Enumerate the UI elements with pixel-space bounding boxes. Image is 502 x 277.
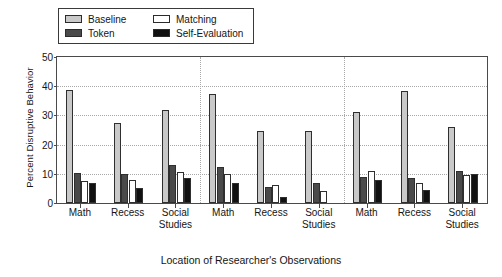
x-axis-title: Location of Researcher's Observations xyxy=(0,254,502,266)
bar-self-evaluation xyxy=(423,190,430,203)
chart-legend: Baseline Matching Token Self-Evaluation xyxy=(58,8,254,44)
bar-token xyxy=(265,187,272,203)
y-axis-tick-label: 10 xyxy=(42,168,53,179)
legend-label-baseline: Baseline xyxy=(88,14,126,25)
bar-baseline xyxy=(162,110,169,203)
legend-label-self-evaluation: Self-Evaluation xyxy=(176,28,243,39)
x-axis-tick-label: Social Studies xyxy=(292,207,346,231)
plot-area: 01020304050 xyxy=(56,56,488,204)
x-axis-tick-label: Math xyxy=(196,207,250,219)
bar-self-evaluation xyxy=(232,183,239,203)
bar-self-evaluation xyxy=(375,180,382,203)
legend-entry-baseline: Baseline xyxy=(65,14,153,25)
x-axis-tick-label: Math xyxy=(340,207,394,219)
legend-entry-matching: Matching xyxy=(153,14,217,25)
bar-token xyxy=(217,167,224,204)
bar-token xyxy=(360,177,367,203)
y-axis-title: Percent Disruptive Behavior xyxy=(24,48,35,208)
bar-matching xyxy=(320,191,327,203)
y-axis-tick-mark xyxy=(54,57,57,58)
legend-label-matching: Matching xyxy=(176,14,217,25)
bar-baseline xyxy=(353,112,360,203)
x-axis-tick-label: Recess xyxy=(387,207,441,219)
gridline xyxy=(57,145,487,146)
gridline xyxy=(57,115,487,116)
bar-baseline xyxy=(209,94,216,204)
bar-chart-figure: Baseline Matching Token Self-Evaluation … xyxy=(0,0,502,277)
y-axis-tick-label: 30 xyxy=(42,110,53,121)
bar-baseline xyxy=(401,91,408,203)
legend-row-2: Token Self-Evaluation xyxy=(65,26,248,40)
bar-matching xyxy=(81,181,88,203)
gridline xyxy=(57,86,487,87)
legend-label-token: Token xyxy=(88,28,115,39)
y-axis-tick-label: 20 xyxy=(42,139,53,150)
bar-token xyxy=(169,165,176,203)
bar-token xyxy=(74,173,81,203)
bar-token xyxy=(121,174,128,203)
bar-self-evaluation xyxy=(184,178,191,203)
x-axis-tick-label: Math xyxy=(53,207,107,219)
legend-entry-token: Token xyxy=(65,28,153,39)
legend-entry-self-evaluation: Self-Evaluation xyxy=(153,28,243,39)
legend-swatch-matching xyxy=(153,15,170,23)
bar-baseline xyxy=(66,90,73,203)
bar-baseline xyxy=(114,123,121,203)
bar-matching xyxy=(416,183,423,203)
bar-self-evaluation xyxy=(89,183,96,203)
x-axis-tick-label: Recess xyxy=(101,207,155,219)
y-axis-tick-mark xyxy=(54,145,57,146)
y-axis-tick-mark xyxy=(54,115,57,116)
bar-matching xyxy=(368,171,375,203)
bar-token xyxy=(313,183,320,203)
bar-matching xyxy=(177,172,184,203)
y-axis-tick-mark xyxy=(54,86,57,87)
y-axis-tick-label: 50 xyxy=(42,52,53,63)
x-axis-tick-label: Recess xyxy=(244,207,298,219)
bar-baseline xyxy=(305,131,312,203)
legend-swatch-self-evaluation xyxy=(153,29,170,37)
panel-divider xyxy=(200,57,201,203)
x-axis-tick-label: Social Studies xyxy=(148,207,202,231)
legend-swatch-baseline xyxy=(65,15,82,23)
bar-matching xyxy=(272,185,279,203)
plot-inner: 01020304050 xyxy=(57,57,487,203)
bar-baseline xyxy=(257,131,264,203)
bar-token xyxy=(408,178,415,203)
panel-divider xyxy=(344,57,345,203)
bar-matching xyxy=(224,174,231,203)
legend-row-1: Baseline Matching xyxy=(65,12,248,26)
bar-self-evaluation xyxy=(136,188,143,203)
y-axis-tick-mark xyxy=(54,174,57,175)
y-axis-tick-label: 40 xyxy=(42,81,53,92)
bar-matching xyxy=(463,175,470,203)
y-axis-tick-mark xyxy=(54,203,57,204)
bar-matching xyxy=(129,180,136,203)
x-axis-tick-label: Social Studies xyxy=(435,207,489,231)
bar-self-evaluation xyxy=(471,174,478,203)
legend-swatch-token xyxy=(65,29,82,37)
bar-baseline xyxy=(448,127,455,203)
bar-token xyxy=(456,171,463,203)
bar-self-evaluation xyxy=(280,197,287,203)
